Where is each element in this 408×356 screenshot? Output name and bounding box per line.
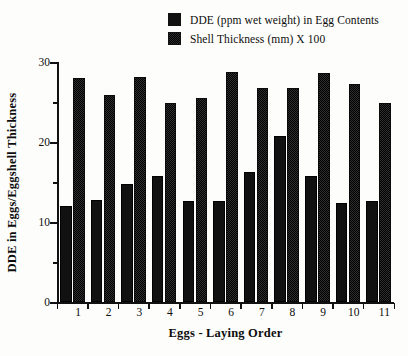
bar-dde <box>336 203 348 302</box>
x-axis-tick-label: 3 <box>136 306 142 318</box>
x-axis-tick-labels: 1234567891011 <box>57 306 394 322</box>
y-axis-label-text: DDE in Eggs/Eggshell Thickness <box>6 92 21 272</box>
bar-shell-thickness <box>165 103 177 302</box>
x-axis-tick-label: 2 <box>106 306 112 318</box>
bar-shell-thickness <box>196 98 208 302</box>
x-axis-label: Eggs - Laying Order <box>57 326 394 341</box>
x-axis-tick-label: 8 <box>290 306 296 318</box>
bar-shell-thickness <box>287 88 299 302</box>
bar-group <box>305 62 336 302</box>
x-axis-tick-label: 6 <box>228 306 234 318</box>
bar-group <box>91 62 122 302</box>
y-axis-tick-label: 10 <box>39 217 51 228</box>
bar-shell-thickness <box>134 77 146 302</box>
bar-dde <box>183 201 195 302</box>
bar-dde <box>244 172 256 302</box>
y-axis-major-tick <box>50 222 57 224</box>
x-axis-tick-label: 5 <box>198 306 204 318</box>
bar-dde <box>305 176 317 302</box>
bar-dde <box>366 201 378 302</box>
bar-group <box>183 62 214 302</box>
x-axis-tick-label: 7 <box>259 306 265 318</box>
bar-group <box>244 62 275 302</box>
x-axis-line <box>57 302 394 304</box>
bar-series-container <box>57 62 394 302</box>
bar-dde <box>152 176 164 302</box>
y-axis-major-tick <box>50 62 57 64</box>
bar-shell-thickness <box>318 73 330 302</box>
bar-dde <box>60 206 72 302</box>
bar-dde <box>91 200 103 302</box>
y-axis-label: DDE in Eggs/Eggshell Thickness <box>5 62 21 302</box>
bar-shell-thickness <box>73 78 85 302</box>
bar-group <box>152 62 183 302</box>
bar-group <box>60 62 91 302</box>
bar-shell-thickness <box>349 84 361 302</box>
bar-shell-thickness <box>104 95 116 302</box>
x-axis-tick-label: 1 <box>75 306 81 318</box>
bar-shell-thickness <box>257 88 269 302</box>
y-axis-tick-label: 30 <box>39 57 51 68</box>
bar-dde <box>274 136 286 302</box>
bar-shell-thickness <box>226 72 238 302</box>
plot-area <box>57 62 394 302</box>
bar-group <box>121 62 152 302</box>
bar-group <box>274 62 305 302</box>
bar-dde <box>213 201 225 302</box>
bar-group <box>336 62 367 302</box>
bar-chart: DDE in Eggs/Eggshell Thickness 0102030 1… <box>0 0 408 356</box>
bar-group <box>366 62 397 302</box>
x-axis-tick-label: 10 <box>348 306 360 318</box>
y-axis-tick-labels: 0102030 <box>24 55 50 309</box>
y-axis-tick-label: 20 <box>39 137 51 148</box>
x-axis-tick-label: 11 <box>379 306 390 318</box>
bar-dde <box>121 184 133 302</box>
bar-group <box>213 62 244 302</box>
x-axis-tick-label: 4 <box>167 306 173 318</box>
bar-shell-thickness <box>379 103 391 302</box>
x-axis-tick-label: 9 <box>320 306 326 318</box>
y-axis-major-tick <box>50 142 57 144</box>
